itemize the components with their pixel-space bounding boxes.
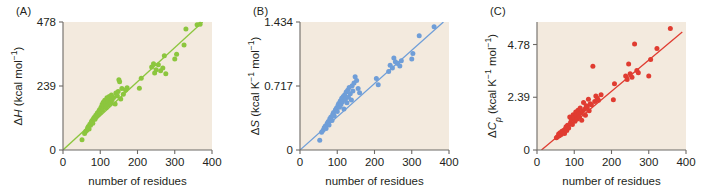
- y-tick-label: 2.39: [508, 91, 530, 103]
- data-point: [611, 97, 616, 102]
- data-point: [182, 43, 187, 48]
- data-point: [172, 56, 177, 61]
- data-point: [417, 33, 422, 38]
- data-point: [117, 79, 122, 84]
- data-point: [183, 26, 188, 31]
- x-tick-label: 400: [202, 156, 221, 168]
- data-point: [654, 46, 659, 51]
- data-point: [636, 70, 641, 75]
- data-point: [410, 51, 415, 56]
- data-point: [566, 125, 571, 130]
- data-point: [137, 86, 142, 91]
- data-point: [317, 138, 322, 143]
- data-point: [583, 113, 588, 118]
- data-point: [121, 92, 126, 97]
- x-tick-label: 100: [565, 156, 584, 168]
- data-point: [629, 75, 634, 80]
- data-point: [376, 82, 381, 87]
- data-point: [399, 58, 404, 63]
- data-point: [668, 26, 673, 31]
- data-point: [327, 123, 332, 128]
- data-point: [162, 53, 167, 58]
- data-point: [125, 85, 130, 90]
- panel-b: (B) 010020030040000.7171.434number of re…: [237, 0, 474, 196]
- panel-c: (C) 010020030040002.394.78number of resi…: [474, 0, 711, 196]
- data-point: [596, 98, 601, 103]
- data-point: [154, 67, 159, 72]
- data-point: [625, 77, 630, 82]
- data-point: [344, 100, 349, 105]
- data-point: [349, 98, 354, 103]
- data-point: [590, 64, 595, 69]
- y-tick-label: 239: [37, 80, 56, 92]
- x-tick-label: 0: [60, 156, 66, 168]
- data-point: [409, 56, 414, 61]
- panel-a: (A) 01002003004000239478number of residu…: [0, 0, 237, 196]
- data-point: [151, 61, 156, 66]
- data-point: [374, 76, 379, 81]
- x-tick-label: 100: [328, 156, 347, 168]
- data-point: [356, 86, 361, 91]
- data-point: [587, 108, 592, 113]
- data-point: [330, 118, 335, 123]
- x-tick-label: 100: [91, 156, 110, 168]
- data-point: [626, 61, 631, 66]
- data-point: [198, 22, 203, 27]
- panel-a-plot: 01002003004000239478number of residuesΔH…: [0, 0, 237, 196]
- x-tick-label: 0: [297, 156, 303, 168]
- x-tick-label: 300: [165, 156, 184, 168]
- x-tick-label: 200: [602, 156, 621, 168]
- data-point: [586, 97, 591, 102]
- data-point: [432, 24, 437, 29]
- y-tick-label: 0: [524, 144, 530, 156]
- data-point: [80, 137, 85, 142]
- y-tick-label: 4.78: [508, 39, 530, 51]
- data-point: [599, 92, 604, 97]
- y-tick-label: 478: [37, 16, 56, 28]
- data-point: [390, 65, 395, 70]
- x-tick-label: 300: [402, 156, 421, 168]
- data-point: [156, 62, 161, 67]
- x-tick-label: 400: [439, 156, 458, 168]
- data-point: [397, 64, 402, 69]
- y-tick-label: 1.434: [264, 16, 293, 28]
- data-point: [350, 89, 355, 94]
- x-axis-title: number of residues: [325, 175, 424, 187]
- data-point: [341, 106, 346, 111]
- data-point: [118, 97, 123, 102]
- data-point: [139, 76, 144, 81]
- x-axis-title: number of residues: [88, 175, 187, 187]
- data-point: [332, 114, 337, 119]
- y-tick-label: 0: [287, 144, 293, 156]
- data-point: [160, 66, 165, 71]
- panel-b-plot: 010020030040000.7171.434number of residu…: [237, 0, 474, 196]
- data-point: [113, 101, 118, 106]
- data-point: [648, 57, 653, 62]
- data-point: [612, 81, 617, 86]
- x-tick-label: 400: [676, 156, 695, 168]
- x-tick-label: 200: [365, 156, 384, 168]
- y-tick-label: 0.717: [264, 80, 293, 92]
- data-point: [163, 71, 168, 76]
- panel-c-plot: 010020030040002.394.78number of residues…: [474, 0, 711, 196]
- data-point: [386, 69, 391, 74]
- data-point: [335, 109, 340, 114]
- x-tick-label: 200: [128, 156, 147, 168]
- data-point: [646, 74, 651, 79]
- x-tick-label: 0: [534, 156, 540, 168]
- data-point: [579, 118, 584, 123]
- data-point: [357, 90, 362, 95]
- y-axis-title: ΔCp (kcal K−1 mol−1): [483, 34, 503, 138]
- data-point: [174, 52, 179, 57]
- data-point: [354, 78, 359, 83]
- y-axis-title: ΔH (kcal mol−1): [9, 46, 24, 125]
- data-point: [632, 42, 637, 47]
- x-tick-label: 300: [639, 156, 658, 168]
- figure-container: (A) 01002003004000239478number of residu…: [0, 0, 711, 196]
- y-axis-title: ΔS (kcal K−1 mol−1): [246, 37, 261, 136]
- y-tick-label: 0: [50, 144, 56, 156]
- x-axis-title: number of residues: [562, 175, 661, 187]
